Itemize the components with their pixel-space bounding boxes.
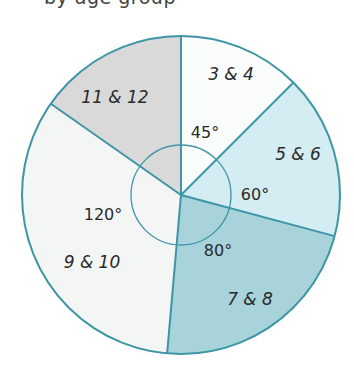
- angle-label-80: 80°: [204, 241, 232, 260]
- pie-chart: 3 & 4 5 & 6 7 & 8 9 & 10 11 & 12 45° 60°…: [0, 0, 354, 378]
- angle-label-60: 60°: [241, 185, 269, 204]
- angle-label-120: 120°: [84, 205, 123, 224]
- slice-label-7-8: 7 & 8: [227, 289, 273, 309]
- angle-label-45: 45°: [191, 123, 219, 142]
- slice-label-3-4: 3 & 4: [208, 64, 254, 84]
- slice-label-11-12: 11 & 12: [81, 87, 148, 107]
- slice-label-9-10: 9 & 10: [64, 252, 121, 272]
- slice-label-5-6: 5 & 6: [275, 144, 321, 164]
